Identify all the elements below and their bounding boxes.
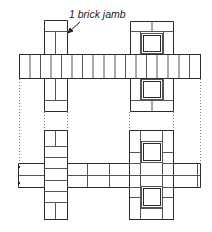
lower-left-pier [45,131,68,220]
upper-right-pier [131,22,174,112]
lower-course-plan [18,131,201,220]
upper-course-plan [20,21,201,112]
lower-right-wall-end [174,164,201,188]
lower-middle-wall [68,164,130,188]
upper-left-pier [45,21,68,112]
jamb-arrow-icon [68,22,80,33]
lower-right-pier [130,131,174,220]
upper-wall-brick-joints [30,55,190,79]
upper-wall [20,55,201,79]
lower-left-wall-end [18,164,45,188]
brick-bond-diagram [0,0,212,232]
